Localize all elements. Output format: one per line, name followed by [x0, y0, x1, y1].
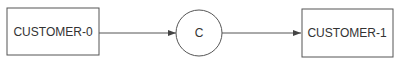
node-c: C: [176, 10, 222, 56]
flow-diagram: CUSTOMER-0 C CUSTOMER-1: [0, 0, 399, 67]
node-customer-0-label: CUSTOMER-0: [13, 25, 92, 39]
node-customer-1-label: CUSTOMER-1: [307, 26, 386, 40]
node-c-label: C: [195, 26, 204, 40]
node-customer-1: CUSTOMER-1: [302, 9, 393, 57]
node-customer-0: CUSTOMER-0: [7, 8, 99, 55]
